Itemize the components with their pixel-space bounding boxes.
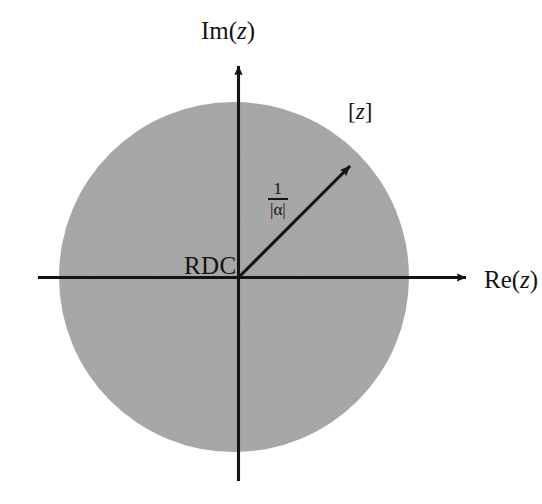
plot-canvas xyxy=(0,0,542,504)
radius-fraction: 1 |α| xyxy=(268,180,288,218)
imaginary-axis-label: Im(z) xyxy=(201,18,255,43)
radius-denominator: |α| xyxy=(268,200,288,218)
region-of-convergence-label: RDC xyxy=(184,253,237,278)
real-axis-label-suffix: ) xyxy=(530,266,538,293)
imaginary-axis-label-var: z xyxy=(237,17,247,44)
radius-numerator: 1 xyxy=(268,180,288,198)
z-plane-bracket-close: ] xyxy=(365,99,373,124)
imaginary-axis-label-prefix: Im( xyxy=(201,17,237,44)
real-axis-label: Re(z) xyxy=(484,267,538,292)
z-plane-var: z xyxy=(356,99,365,124)
radius-value-label: 1 |α| xyxy=(268,180,288,218)
imaginary-axis-label-suffix: ) xyxy=(247,17,255,44)
real-axis-label-prefix: Re( xyxy=(484,266,520,293)
z-plane-label: [z] xyxy=(348,100,372,123)
complex-plane-figure: Im(z) Re(z) [z] RDC 1 |α| xyxy=(0,0,542,504)
real-axis-label-var: z xyxy=(520,266,530,293)
z-plane-bracket-open: [ xyxy=(348,99,356,124)
